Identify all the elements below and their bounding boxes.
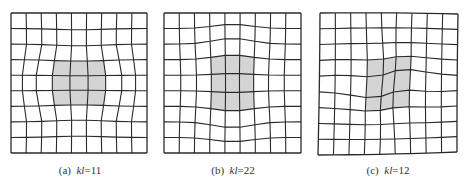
grid-line-horizontal bbox=[164, 122, 301, 127]
shaded-cell bbox=[70, 76, 88, 91]
grid-line-vertical bbox=[349, 13, 351, 155]
grid-line-vertical bbox=[318, 13, 320, 155]
caption-b: (b) kl=22 bbox=[211, 164, 255, 176]
grid-line-horizontal bbox=[11, 136, 147, 137]
grid-line-horizontal bbox=[320, 28, 458, 29]
shaded-cell bbox=[211, 92, 226, 111]
shaded-cell bbox=[239, 92, 254, 111]
shaded-cell bbox=[88, 76, 106, 91]
grid-line-vertical bbox=[457, 14, 458, 152]
grid-line-vertical bbox=[254, 13, 256, 153]
shaded-cell bbox=[395, 56, 411, 70]
panel-a-grid bbox=[11, 13, 147, 153]
caption-a-variable: kl bbox=[76, 164, 84, 176]
grid-line-vertical bbox=[210, 13, 212, 153]
shaded-cell bbox=[365, 96, 381, 111]
shaded-cell bbox=[225, 55, 239, 73]
shaded-cell bbox=[87, 61, 105, 76]
grid-line-horizontal bbox=[164, 39, 301, 44]
grid-line-horizontal bbox=[318, 152, 457, 155]
grid-line-horizontal bbox=[11, 75, 147, 76]
caption-c-label: (c) bbox=[367, 164, 379, 176]
shaded-cell bbox=[52, 61, 70, 76]
grid-line-vertical bbox=[284, 13, 286, 153]
grid-line-vertical bbox=[239, 13, 240, 153]
grid-line-horizontal bbox=[11, 44, 147, 46]
shaded-cell bbox=[52, 76, 70, 91]
grid-line-horizontal bbox=[164, 137, 301, 141]
grid-line-vertical bbox=[269, 13, 271, 153]
grid-line-horizontal bbox=[318, 137, 457, 140]
shaded-cell bbox=[87, 90, 105, 105]
grid-line-horizontal bbox=[11, 60, 147, 61]
grid-line-vertical bbox=[116, 13, 121, 153]
shaded-cell bbox=[393, 70, 410, 92]
grid-line-horizontal bbox=[164, 25, 301, 29]
shaded-cell bbox=[211, 55, 226, 74]
shaded-cell bbox=[366, 75, 383, 97]
caption-a: (a) kl=11 bbox=[59, 164, 101, 176]
shaded-cell bbox=[211, 74, 225, 93]
grid-line-horizontal bbox=[11, 105, 147, 106]
shaded-cell bbox=[225, 92, 239, 110]
grid-line-horizontal bbox=[320, 43, 458, 45]
shaded-cell bbox=[70, 90, 88, 105]
grid-line-vertical bbox=[131, 13, 135, 153]
caption-b-value: =22 bbox=[238, 164, 255, 176]
grid-line-vertical bbox=[441, 14, 442, 153]
shaded-cell bbox=[239, 55, 254, 74]
caption-b-label: (b) bbox=[211, 164, 224, 176]
shaded-cell bbox=[393, 90, 410, 108]
shaded-cell bbox=[52, 90, 70, 105]
grid-line-horizontal bbox=[320, 13, 458, 14]
grid-line-horizontal bbox=[11, 120, 147, 122]
grid-line-vertical bbox=[36, 13, 41, 153]
shaded-cell bbox=[226, 74, 240, 93]
panel-b-grid bbox=[164, 13, 301, 153]
grid-line-vertical bbox=[194, 13, 196, 153]
caption-a-label: (a) bbox=[59, 164, 71, 176]
deformed-grid-figure bbox=[0, 0, 466, 188]
grid-line-horizontal bbox=[11, 90, 147, 91]
shaded-cell bbox=[239, 74, 253, 93]
grid-line-vertical bbox=[225, 13, 226, 153]
caption-c-variable: kl bbox=[384, 164, 392, 176]
grid-line-vertical bbox=[179, 13, 181, 153]
grid-line-vertical bbox=[409, 13, 412, 153]
grid-line-vertical bbox=[22, 13, 26, 153]
caption-c: (c) kl=12 bbox=[367, 164, 410, 176]
grid-line-vertical bbox=[333, 13, 335, 155]
shaded-cell bbox=[70, 61, 88, 76]
grid-line-vertical bbox=[425, 13, 427, 153]
grid-line-horizontal bbox=[319, 121, 457, 124]
grid-line-vertical bbox=[364, 13, 367, 155]
panel-c-grid bbox=[318, 13, 458, 155]
caption-a-value: =11 bbox=[84, 164, 101, 176]
caption-c-value: =12 bbox=[392, 164, 409, 176]
grid-line-horizontal bbox=[11, 29, 147, 30]
shaded-cell bbox=[367, 59, 384, 77]
